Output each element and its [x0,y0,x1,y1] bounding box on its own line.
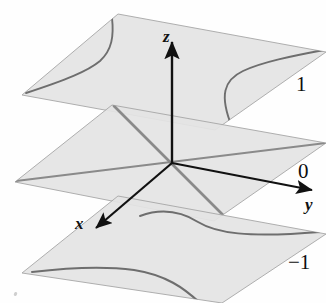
plane-z-1 [22,14,326,130]
level-label-top: 1 [296,74,307,95]
y-axis-label: y [305,196,313,213]
level-label-middle: 0 [298,161,309,182]
x-axis-label: x [75,215,84,232]
plane-z-1-surface [22,14,326,130]
plane-z-neg1 [22,196,326,303]
z-axis-label: z [163,28,170,45]
level-curves-figure: z y x 1 0 −1 [0,0,326,303]
level-label-bottom: −1 [288,252,310,273]
